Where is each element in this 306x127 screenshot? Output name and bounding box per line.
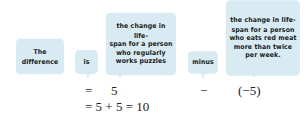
equation-row1-equals: = <box>85 84 92 98</box>
label-minus-pointer <box>201 73 205 79</box>
label-is-text: is <box>83 58 89 67</box>
equation-row2: = 5 + 5 = 10 <box>85 100 149 114</box>
equation-row1-first-value: 5 <box>111 84 118 98</box>
equation-row1-second-value: (−5) <box>238 84 261 98</box>
label-minus: minus <box>188 51 218 74</box>
label-is: is <box>75 50 98 74</box>
label-difference: The difference <box>16 39 64 75</box>
label-minus-text: minus <box>192 58 214 67</box>
label-is-pointer <box>86 73 90 79</box>
label-difference-text: The difference <box>22 48 59 66</box>
equation-row1-operator: − <box>200 84 207 98</box>
label-red-meat-text: the change in life- span for a person wh… <box>229 16 296 60</box>
label-puzzles-pointer <box>118 73 122 79</box>
label-puzzles-text: the change in life- span for a person wh… <box>109 22 173 66</box>
label-puzzles: the change in life- span for a person wh… <box>106 13 176 76</box>
label-red-meat: the change in life- span for a person wh… <box>226 0 300 76</box>
label-red-meat-pointer <box>252 73 256 79</box>
